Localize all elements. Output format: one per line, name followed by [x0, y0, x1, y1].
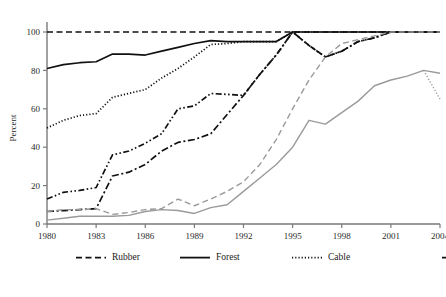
legend-label: Cable	[328, 252, 350, 263]
svg-text:100: 100	[27, 27, 41, 37]
svg-text:80: 80	[31, 66, 41, 76]
legend-swatch-dashed-icon	[76, 253, 106, 262]
svg-text:1983: 1983	[87, 231, 106, 241]
legend-swatch-dotted-icon	[292, 253, 322, 262]
svg-text:Percent: Percent	[8, 114, 18, 141]
legend-entry-other[interactable]: Other	[442, 250, 446, 265]
svg-text:2001: 2001	[382, 231, 400, 241]
axis-labels: 0204060801001980198319861989199219951998…	[8, 27, 446, 241]
chart-figure: 0204060801001980198319861989199219951998…	[0, 0, 446, 297]
svg-text:1980: 1980	[38, 231, 57, 241]
svg-text:1989: 1989	[185, 231, 204, 241]
series-line-cable	[47, 32, 440, 128]
chart-legend: RubberForestCableOtherTVsNetworksM-media…	[76, 250, 442, 296]
legend-entry-rubber[interactable]: Rubber	[76, 250, 180, 265]
line-chart-plot: 0204060801001980198319861989199219951998…	[0, 0, 446, 250]
legend-swatch-dashdotdot-icon	[442, 253, 446, 262]
legend-label: Rubber	[112, 252, 140, 263]
legend-entry-forest[interactable]: Forest	[180, 250, 292, 265]
svg-text:20: 20	[31, 181, 41, 191]
axes	[47, 22, 440, 224]
legend-label: Forest	[216, 252, 240, 263]
series-line-networks	[47, 32, 440, 214]
svg-text:60: 60	[31, 104, 41, 114]
svg-text:1986: 1986	[136, 231, 155, 241]
series-line-m-media-and-enterpr	[47, 70, 440, 220]
svg-text:1995: 1995	[284, 231, 303, 241]
series-line-tvs	[47, 32, 440, 212]
legend-swatch-solid-icon	[180, 253, 210, 262]
svg-text:40: 40	[31, 142, 41, 152]
legend-entry-cable[interactable]: Cable	[292, 250, 442, 265]
svg-text:0: 0	[36, 219, 41, 229]
svg-text:2004: 2004	[431, 231, 446, 241]
axis-ticks	[43, 32, 440, 228]
svg-text:1998: 1998	[333, 231, 352, 241]
svg-text:1992: 1992	[235, 231, 253, 241]
data-series-group	[47, 32, 440, 220]
series-line-phones	[424, 70, 440, 99]
series-line-forest	[47, 32, 440, 68]
